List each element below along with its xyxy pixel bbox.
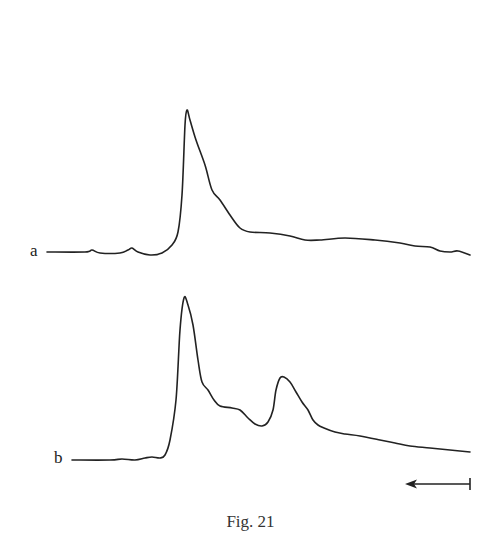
figure: a b Fig. 21 (0, 0, 501, 558)
chart-canvas (0, 0, 501, 558)
direction-arrow-icon (405, 478, 470, 490)
trace-a (47, 110, 470, 255)
figure-caption: Fig. 21 (0, 512, 501, 532)
trace-b (72, 297, 470, 460)
trace-label-b: b (54, 448, 63, 468)
trace-label-a: a (30, 241, 38, 261)
